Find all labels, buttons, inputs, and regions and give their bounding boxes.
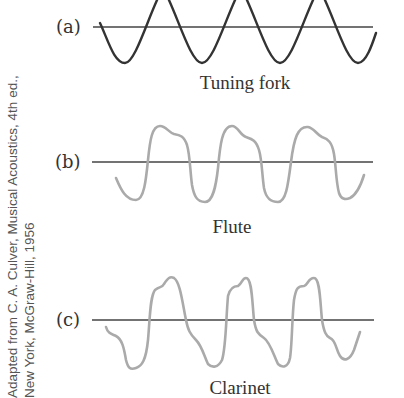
source-credit: Adapted from C. A. Culver, Musical Acous… bbox=[4, 38, 38, 398]
credit-line-2: New York, McGraw-Hill, 1956 bbox=[21, 38, 38, 398]
panel-label-c: (c) bbox=[56, 311, 80, 329]
panel-label-b: (b) bbox=[55, 153, 81, 171]
waveform-tuning-fork bbox=[100, 0, 376, 63]
panel-c-clarinet bbox=[92, 277, 374, 368]
caption-clarinet: Clarinet bbox=[209, 378, 270, 397]
panel-a-tuning-fork bbox=[93, 0, 376, 63]
waveform-clarinet bbox=[106, 277, 360, 368]
waveform-figure: (a) (b) (c) Tuning fork Flute Clarinet A… bbox=[0, 0, 404, 398]
caption-tuning-fork: Tuning fork bbox=[200, 73, 291, 92]
panel-b-flute bbox=[92, 126, 373, 202]
caption-flute: Flute bbox=[212, 217, 251, 236]
waveform-flute bbox=[116, 126, 364, 202]
panel-label-a: (a) bbox=[56, 18, 81, 36]
waveform-plots bbox=[0, 0, 404, 398]
credit-line-1: Adapted from C. A. Culver, Musical Acous… bbox=[4, 38, 21, 398]
